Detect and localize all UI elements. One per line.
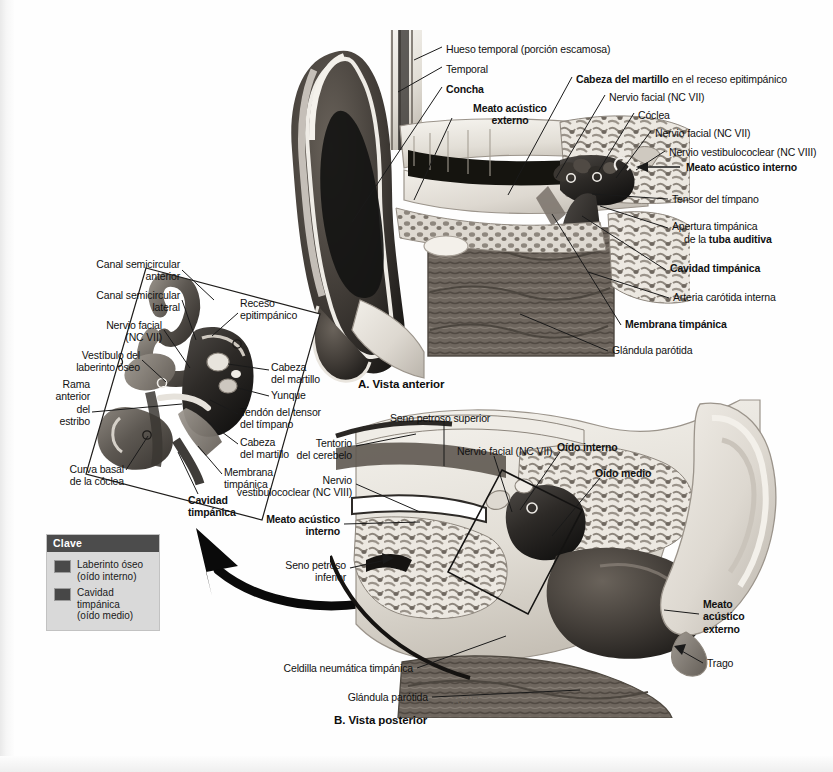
label-oido-interno: Oído interno xyxy=(557,441,618,453)
label-nervio-facial-b: Nervio facial (NC VII) xyxy=(457,445,552,457)
label-oido-medio: Oído medio xyxy=(595,467,651,479)
label-seno-petroso-superior: Seno petroso superior xyxy=(390,412,490,424)
label-curva-basal-coclea: Curva basal de la cóclea xyxy=(28,463,124,488)
label-canal-semicircular-lateral: Canal semicircular lateral xyxy=(58,289,180,314)
label-trago: Trago xyxy=(707,657,733,669)
label-nervio-facial-a1: Nervio facial (NC VII) xyxy=(609,91,704,103)
label-celdilla-neumatica-timpanica: Celdilla neumática timpánica xyxy=(253,662,413,674)
svg-text:N.104: N.104 xyxy=(451,692,479,706)
legend-swatch-cavidad-timpanica xyxy=(54,588,71,601)
legend-box: Clave Laberinto óseo (oído interno) Cavi… xyxy=(46,534,160,631)
label-nervio-vestibulococlear-b: Nervio vestibulococlear (NC VIII) xyxy=(218,474,352,499)
legend-swatch-laberinto-oseo xyxy=(54,560,71,573)
label-apertura-timpanica: Apertura timpánica xyxy=(672,220,757,232)
label-tuba-auditiva-bold: tuba auditiva xyxy=(709,233,772,245)
legend-item-laberinto-oseo: Laberinto óseo (oído interno) xyxy=(54,559,153,582)
label-meato-acustico-externo-b: Meato acústico externo xyxy=(703,598,744,635)
label-cabeza-martillo-receso-bold: Cabeza del martillo xyxy=(576,73,669,85)
legend-item-cavidad-timpanica: Cavidad timpánica (oído medio) xyxy=(54,587,153,622)
label-glandula-parotida-a: Glándula parótida xyxy=(612,344,692,356)
label-coclea: Cóclea xyxy=(638,109,670,121)
label-cavidad-timpanica-a: Cavidad timpánica xyxy=(670,262,760,274)
label-temporal: Temporal xyxy=(446,63,488,75)
label-tuba-auditiva: de la tuba auditiva xyxy=(684,233,772,245)
label-membrana-timpanica-a: Membrana timpánica xyxy=(625,318,727,330)
legend-label-laberinto-oseo: Laberinto óseo (oído interno) xyxy=(77,559,143,582)
label-nervio-facial-a2: Nervio facial (NC VII) xyxy=(655,127,750,139)
label-canal-semicircular-anterior: Canal semicircular anterior xyxy=(58,258,180,283)
legend-items: Laberinto óseo (oído interno) Cavidad ti… xyxy=(47,552,159,630)
label-arteria-carotida-interna: Arteria carótida interna xyxy=(673,291,776,303)
label-meato-acustico-interno-b: Meato acústico interno xyxy=(230,513,340,538)
label-glandula-parotida-b: Glándula parótida xyxy=(318,691,428,703)
label-concha: Concha xyxy=(446,83,484,95)
label-meato-acustico-interno-a: Meato acústico interno xyxy=(686,161,797,173)
label-seno-petroso-inferior: Seno petroso inferior xyxy=(262,559,346,584)
label-tentorio-cerebelo: Tentorio del cerebelo xyxy=(272,437,352,462)
label-receso-epitimpanico: Receso epitimpánico xyxy=(240,297,297,322)
atlas-page: N.104 xyxy=(0,0,833,772)
caption-panel-a: A. Vista anterior xyxy=(358,378,444,390)
label-nervio-vestibulococlear-a: Nervio vestibulococlear (NC VIII) xyxy=(669,146,816,158)
label-cabeza-martillo-receso: Cabeza del martillo en el receso epitimp… xyxy=(576,73,787,85)
legend-label-cavidad-timpanica: Cavidad timpánica (oído medio) xyxy=(77,587,153,622)
label-hueso-temporal: Hueso temporal (porción escamosa) xyxy=(446,43,610,55)
label-tensor-timpano: Tensor del tímpano xyxy=(672,193,759,205)
label-nervio-facial-inset: Nervio facial (NC VII) xyxy=(42,319,162,344)
label-rama-anterior-estribo: Rama anterior del estribo xyxy=(28,378,90,428)
label-yunque: Yunque xyxy=(271,389,306,401)
label-tuba-auditiva-prefix: de la xyxy=(684,233,709,245)
caption-panel-b: B. Vista posterior xyxy=(334,714,427,726)
label-cabeza-martillo-receso-rest: en el receso epitimpánico xyxy=(669,73,787,85)
label-tendon-tensor-timpano: Tendón del tensor del tímpano xyxy=(240,406,321,431)
label-cabeza-del-martillo-1: Cabeza del martillo xyxy=(271,361,320,386)
legend-title: Clave xyxy=(47,535,159,552)
label-vestibulo-laberinto-oseo: Vestíbulo del laberinto óseo xyxy=(28,349,140,374)
label-meato-acustico-externo-a: Meato acústico externo xyxy=(455,102,565,127)
